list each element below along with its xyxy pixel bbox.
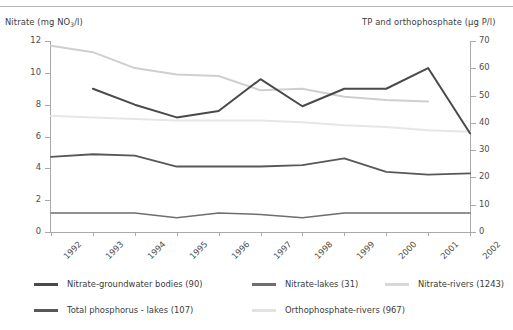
right-tick-mark xyxy=(471,41,476,42)
right-tick-mark xyxy=(471,68,476,69)
right-tick-mark xyxy=(471,232,476,233)
legend-color-swatch xyxy=(252,283,276,286)
x-tick-mark xyxy=(93,232,94,236)
x-tick-mark xyxy=(470,232,471,236)
x-tick-label: 1998 xyxy=(313,239,335,261)
x-tick-mark xyxy=(302,232,303,236)
left-tick-label: 10 xyxy=(30,67,41,77)
x-tick-label: 1999 xyxy=(355,239,377,261)
right-axis-title: TP and orthophosphate (µg P/l) xyxy=(362,17,496,27)
left-tick-label: 12 xyxy=(30,35,41,45)
left-tick-label: 8 xyxy=(36,99,41,109)
left-axis-title-pre: Nitrate (mg NO xyxy=(5,17,70,27)
x-tick-label: 1993 xyxy=(103,239,125,261)
right-tick-mark xyxy=(471,123,476,124)
left-tick-mark xyxy=(45,168,50,169)
right-tick-label: 40 xyxy=(479,117,490,127)
right-tick-mark xyxy=(471,205,476,206)
series-line xyxy=(51,116,470,132)
x-tick-mark xyxy=(135,232,136,236)
legend-item-label: Nitrate-lakes (31) xyxy=(285,279,358,289)
top-divider xyxy=(0,6,513,7)
chart-plot-area: 024681012 010203040506070 19921993199419… xyxy=(51,41,470,232)
right-tick-label: 60 xyxy=(479,62,490,72)
left-tick-mark xyxy=(45,105,50,106)
series-line xyxy=(51,46,428,102)
right-tick-label: 30 xyxy=(479,144,490,154)
x-tick-mark xyxy=(428,232,429,236)
right-tick-label: 10 xyxy=(479,199,490,209)
series-lines xyxy=(51,41,470,232)
x-tick-mark xyxy=(177,232,178,236)
x-tick-label: 1994 xyxy=(145,239,167,261)
x-tick-mark xyxy=(344,232,345,236)
x-tick-label: 1995 xyxy=(187,239,209,261)
x-tick-label: 2000 xyxy=(396,239,418,261)
left-tick-mark xyxy=(45,200,50,201)
x-tick-label: 2002 xyxy=(480,239,502,261)
x-tick-label: 1997 xyxy=(271,239,293,261)
legend-item-label: Total phosphorus - lakes (107) xyxy=(67,305,193,315)
legend-item-label: Nitrate-groundwater bodies (90) xyxy=(67,279,203,289)
legend-item[interactable]: Total phosphorus - lakes (107) xyxy=(34,305,193,315)
right-tick-label: 50 xyxy=(479,90,490,100)
x-tick-label: 1996 xyxy=(229,239,251,261)
right-axis-line xyxy=(470,41,471,232)
right-tick-mark xyxy=(471,177,476,178)
chart-legend: Nitrate-groundwater bodies (90)Nitrate-l… xyxy=(30,279,513,327)
x-tick-mark xyxy=(386,232,387,236)
left-tick-label: 0 xyxy=(36,226,41,236)
legend-color-swatch xyxy=(385,283,409,286)
left-tick-label: 2 xyxy=(36,194,41,204)
legend-color-swatch xyxy=(34,283,58,286)
legend-item[interactable]: Orthophosphate-rivers (967) xyxy=(252,305,405,315)
x-tick-mark xyxy=(219,232,220,236)
legend-item[interactable]: Nitrate-lakes (31) xyxy=(252,279,358,289)
x-tick-mark xyxy=(261,232,262,236)
right-tick-mark xyxy=(471,96,476,97)
right-tick-label: 70 xyxy=(479,35,490,45)
legend-item[interactable]: Nitrate-groundwater bodies (90) xyxy=(34,279,203,289)
series-line xyxy=(51,213,470,218)
left-tick-label: 4 xyxy=(36,162,41,172)
left-tick-label: 6 xyxy=(36,131,41,141)
legend-color-swatch xyxy=(252,309,276,312)
right-tick-mark xyxy=(471,150,476,151)
x-tick-mark xyxy=(51,232,52,236)
left-tick-mark xyxy=(45,137,50,138)
legend-color-swatch xyxy=(34,309,58,312)
legend-item[interactable]: Nitrate-rivers (1243) xyxy=(385,279,504,289)
left-tick-mark xyxy=(45,232,50,233)
right-tick-label: 20 xyxy=(479,171,490,181)
left-axis-title-post: /l) xyxy=(74,17,83,27)
left-tick-mark xyxy=(45,41,50,42)
x-tick-label: 1992 xyxy=(61,239,83,261)
right-tick-label: 0 xyxy=(479,226,484,236)
left-axis-title: Nitrate (mg NO3/l) xyxy=(5,17,83,28)
left-tick-mark xyxy=(45,73,50,74)
series-line xyxy=(51,154,470,174)
legend-item-label: Nitrate-rivers (1243) xyxy=(418,279,504,289)
legend-item-label: Orthophosphate-rivers (967) xyxy=(285,305,405,315)
x-tick-label: 2001 xyxy=(438,239,460,261)
